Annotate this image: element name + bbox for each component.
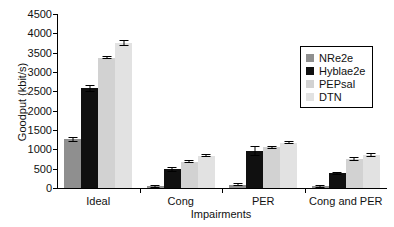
x-group-label: Ideal: [57, 195, 140, 207]
x-axis-label: Impairments: [56, 208, 386, 220]
error-bar: [85, 85, 94, 92]
legend-label: NRe2e: [319, 52, 353, 64]
bar-dtn-per: [280, 143, 297, 188]
legend-swatch-icon: [306, 54, 314, 62]
bar-hyblae2e-per: [246, 151, 263, 188]
bar-group: PER: [222, 14, 305, 188]
error-bar: [151, 185, 160, 188]
x-tick-mark: [305, 188, 306, 193]
bar-wrapper: [64, 14, 81, 188]
legend-swatch-icon: [306, 80, 314, 88]
legend-item-nre2e: NRe2e: [306, 51, 365, 64]
bar-dtn-cong-and-per: [363, 155, 380, 188]
x-tick-mark: [140, 188, 141, 193]
bar-pepsal-per: [263, 147, 280, 188]
bar-dtn-cong: [198, 156, 215, 188]
bar-pepsal-cong: [181, 162, 198, 188]
error-bar: [250, 146, 259, 156]
error-bar: [102, 56, 111, 59]
bar-wrapper: [198, 14, 215, 188]
legend-label: PEPsal: [319, 78, 355, 90]
bar-wrapper: [164, 14, 181, 188]
legend: NRe2eHyblae2ePEPsalDTN: [300, 46, 373, 108]
bar-wrapper: [181, 14, 198, 188]
bar-group: Ideal: [57, 14, 140, 188]
bar-wrapper: [263, 14, 280, 188]
error-bar: [333, 172, 342, 175]
bar-wrapper: [147, 14, 164, 188]
bar-wrapper: [98, 14, 115, 188]
bar-group-bars: [57, 14, 140, 188]
bar-pepsal-cong-and-per: [346, 159, 363, 188]
error-bar: [202, 154, 211, 157]
bar-group-bars: [222, 14, 305, 188]
error-bar: [168, 167, 177, 173]
legend-item-hyblae2e: Hyblae2e: [306, 64, 365, 77]
y-tick-mark: [53, 188, 57, 189]
bar-wrapper: [115, 14, 132, 188]
legend-label: DTN: [319, 91, 342, 103]
legend-swatch-icon: [306, 67, 314, 75]
error-bar: [119, 40, 128, 46]
error-bar: [350, 157, 359, 160]
bar-pepsal-ideal: [98, 58, 115, 188]
error-bar: [316, 185, 325, 188]
legend-item-dtn: DTN: [306, 90, 365, 103]
bar-dtn-ideal: [115, 43, 132, 188]
bar-group: Cong: [140, 14, 223, 188]
x-group-label: Cong: [140, 195, 223, 207]
bar-wrapper: [280, 14, 297, 188]
bar-chart: Goodput (kbit/s) Impairments 05001000150…: [0, 0, 394, 227]
y-axis-label: Goodput (kbit/s): [16, 37, 28, 167]
bar-wrapper: [229, 14, 246, 188]
error-bar: [367, 153, 376, 156]
bar-hyblae2e-cong-and-per: [329, 173, 346, 188]
error-bar: [267, 146, 276, 149]
legend-swatch-icon: [306, 93, 314, 101]
error-bar: [185, 160, 194, 163]
bar-wrapper: [246, 14, 263, 188]
legend-label: Hyblae2e: [319, 65, 365, 77]
bar-wrapper: [81, 14, 98, 188]
error-bar: [68, 137, 77, 142]
legend-item-pepsal: PEPsal: [306, 77, 365, 90]
error-bar: [284, 141, 293, 144]
bar-hyblae2e-ideal: [81, 88, 98, 188]
bar-nre2e-ideal: [64, 139, 81, 188]
x-group-label: Cong and PER: [305, 195, 388, 207]
x-tick-mark: [222, 188, 223, 193]
x-group-label: PER: [222, 195, 305, 207]
bar-group-bars: [140, 14, 223, 188]
error-bar: [233, 183, 242, 186]
